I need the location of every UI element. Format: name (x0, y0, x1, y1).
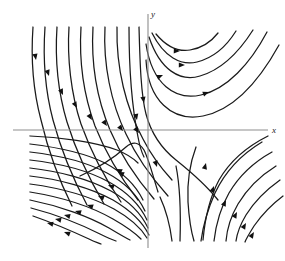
phase-portrait-figure: x y (0, 0, 285, 261)
x-axis-label: x (271, 125, 276, 135)
trajectory-curve (105, 27, 168, 196)
flow-direction-arrow (32, 53, 38, 60)
trajectory-curve (160, 197, 172, 241)
y-axis-label: y (150, 9, 155, 19)
trajectory-curve (236, 180, 280, 241)
flow-direction-arrow (179, 62, 185, 67)
trajectory-curve (152, 31, 236, 63)
trajectory-curve (149, 30, 253, 77)
flow-direction-arrow (249, 231, 257, 239)
flow-direction-arrow (202, 162, 209, 169)
phase-portrait-canvas: x y (0, 0, 285, 261)
flow-direction-arrow (72, 101, 80, 109)
trajectory-group (30, 27, 283, 244)
trajectory-curve (176, 166, 180, 241)
axes-group (13, 14, 268, 248)
trajectory-curve (188, 147, 196, 241)
trajectory-curve (139, 27, 218, 200)
trajectory-curve (156, 33, 218, 50)
flow-direction-arrow (156, 73, 164, 80)
